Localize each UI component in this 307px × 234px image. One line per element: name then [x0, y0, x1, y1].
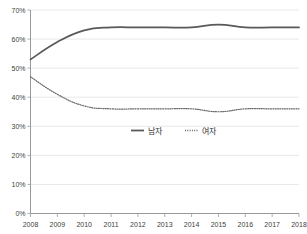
x-tick-label: 2012 [130, 221, 146, 228]
chart-container: 0%10%20%30%40%50%60%70% 2008200920102011… [0, 0, 307, 234]
y-tick-label: 60% [11, 36, 25, 43]
x-axis-tick-marks [31, 214, 300, 218]
x-tick-label: 2010 [76, 221, 92, 228]
chart-legend: 남자 여자 [131, 126, 217, 136]
x-tick-label: 2014 [184, 221, 200, 228]
y-tick-label: 10% [11, 181, 25, 188]
y-tick-label: 0% [15, 210, 25, 217]
x-tick-label: 2011 [104, 221, 119, 228]
y-tick-label: 70% [11, 7, 25, 14]
y-tick-label: 50% [11, 65, 25, 72]
x-tick-label: 2016 [238, 221, 254, 228]
x-tick-label: 2015 [211, 221, 227, 228]
legend-label-male: 남자 [148, 127, 163, 136]
y-axis-tick-labels: 0%10%20%30%40%50%60%70% [11, 7, 25, 218]
y-tick-label: 20% [11, 152, 25, 159]
gridlines [28, 10, 300, 214]
series-line-female [31, 77, 300, 112]
y-tick-label: 40% [11, 94, 25, 101]
x-tick-label: 2013 [157, 221, 173, 228]
line-chart: 0%10%20%30%40%50%60%70% 2008200920102011… [0, 0, 307, 234]
x-tick-label: 2017 [264, 221, 280, 228]
x-axis-tick-labels: 2008200920102011201220132014201520162017… [23, 221, 307, 228]
x-tick-label: 2018 [291, 221, 307, 228]
x-tick-label: 2008 [23, 221, 39, 228]
y-tick-label: 30% [11, 123, 25, 130]
series-line-male [31, 25, 300, 60]
x-tick-label: 2009 [50, 221, 66, 228]
legend-label-female: 여자 [202, 126, 217, 136]
